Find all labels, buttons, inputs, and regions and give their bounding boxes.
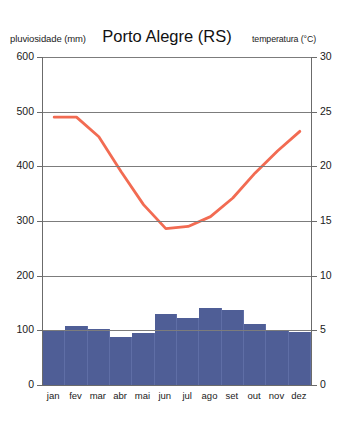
bar (155, 314, 177, 385)
bar (43, 331, 65, 385)
y-axis-tick-left (37, 221, 42, 222)
y-axis-tick-left (37, 276, 42, 277)
bar (132, 333, 154, 385)
x-axis-label: fev (64, 390, 86, 401)
x-axis-label: jun (154, 390, 176, 401)
bar (177, 318, 199, 385)
y-axis-tick-right (312, 112, 317, 113)
y-axis-tick-left (37, 330, 42, 331)
bar (222, 310, 244, 385)
bar (289, 332, 311, 385)
bar (244, 324, 266, 385)
y-axis-tick-right (312, 276, 317, 277)
y-axis-label-left: 300 (4, 214, 34, 226)
y-axis-tick-left (37, 166, 42, 167)
y-axis-tick-right (312, 330, 317, 331)
y-axis-label-left: 200 (4, 269, 34, 281)
x-axis-label: jul (176, 390, 198, 401)
x-axis-label: mar (87, 390, 109, 401)
y-axis-tick-left (37, 57, 42, 58)
x-axis-label: set (221, 390, 243, 401)
bar (199, 308, 221, 385)
y-axis-label-right: 0 (320, 378, 350, 390)
x-axis-label: abr (109, 390, 131, 401)
y-axis-label-left: 600 (4, 50, 34, 62)
x-axis-labels: janfevmarabrmaijunjulagosetoutnovdez (42, 390, 310, 406)
y-axis-tick-right (312, 166, 317, 167)
climograph-chart: pluviosidade (mm) Porto Alegre (RS) temp… (0, 0, 358, 439)
y-axis-label-right: 20 (320, 159, 350, 171)
bar (88, 329, 110, 385)
bar-series (43, 57, 311, 385)
y-axis-label-left: 400 (4, 159, 34, 171)
left-axis-title: pluviosidade (mm) (10, 33, 86, 44)
chart-title: Porto Alegre (RS) (86, 27, 248, 46)
y-axis-tick-right (312, 385, 317, 386)
chart-header: pluviosidade (mm) Porto Alegre (RS) temp… (0, 30, 358, 50)
x-axis-label: dez (288, 390, 310, 401)
x-axis-label: out (243, 390, 265, 401)
bar (110, 337, 132, 385)
x-axis-label: mai (131, 390, 153, 401)
y-axis-label-left: 100 (4, 323, 34, 335)
y-axis-label-right: 15 (320, 214, 350, 226)
right-axis-title: temperatura (°C) (252, 34, 316, 44)
y-axis-tick-right (312, 57, 317, 58)
y-axis-label-right: 25 (320, 105, 350, 117)
bar (65, 326, 87, 385)
x-axis-label: jan (42, 390, 64, 401)
y-axis-label-right: 30 (320, 50, 350, 62)
bar (266, 330, 288, 385)
x-axis-label: ago (198, 390, 220, 401)
plot-area (42, 57, 312, 386)
y-axis-label-right: 5 (320, 323, 350, 335)
x-axis-label: nov (265, 390, 287, 401)
y-axis-tick-left (37, 112, 42, 113)
y-axis-tick-right (312, 221, 317, 222)
y-axis-tick-left (37, 385, 42, 386)
y-axis-label-left: 0 (4, 378, 34, 390)
y-axis-label-left: 500 (4, 105, 34, 117)
y-axis-label-right: 10 (320, 269, 350, 281)
